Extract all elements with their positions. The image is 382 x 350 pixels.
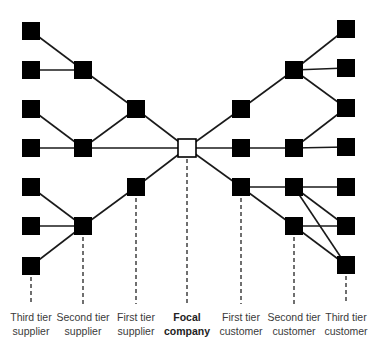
node-t2c (285, 217, 303, 235)
node-t3c (337, 256, 355, 274)
node-t3c (337, 178, 355, 196)
node-t3c (337, 20, 355, 38)
tier-label-t3c: Third tiercustomer (313, 310, 379, 338)
node-t1c (232, 178, 250, 196)
node-t3c (337, 99, 355, 117)
node-t3s (22, 61, 40, 79)
node-t2c (285, 61, 303, 79)
node-t2c (285, 139, 303, 157)
node-t2s (74, 217, 92, 235)
node-t2s (74, 61, 92, 79)
node-t3s (22, 100, 40, 118)
node-t2c (285, 178, 303, 196)
node-t3s (22, 22, 40, 40)
node-t3s (22, 217, 40, 235)
node-t1c (232, 139, 250, 157)
supply-chain-diagram (0, 0, 382, 350)
node-t3c (337, 138, 355, 156)
node-t3c (337, 59, 355, 77)
node-t3s (22, 139, 40, 157)
node-t1c (232, 100, 250, 118)
node-t3s (22, 178, 40, 196)
tier-label-line2: customer (313, 324, 379, 338)
tier-label-line1: Third tier (313, 310, 379, 324)
node-t1s (127, 100, 145, 118)
node-t3s (22, 257, 40, 275)
node-t2s (74, 139, 92, 157)
node-t3c (337, 217, 355, 235)
tier-labels: Third tiersupplierSecond tiersupplierFir… (0, 310, 382, 350)
focal-company-node (178, 139, 196, 157)
node-t1s (127, 178, 145, 196)
